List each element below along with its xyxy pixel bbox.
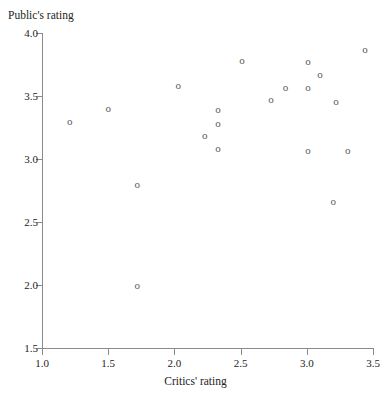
y-tick-label: 2.5 — [0, 217, 38, 228]
data-point: o — [173, 80, 184, 91]
data-point: o — [328, 196, 339, 207]
data-point: o — [132, 179, 143, 190]
y-tick-label: 2.0 — [0, 280, 38, 291]
data-point: o — [342, 145, 353, 156]
data-point: o — [266, 94, 277, 105]
scatter-plot-figure: Public's rating 1.52.02.53.03.54.0 1.01.… — [0, 0, 391, 396]
circle-marker-icon: o — [303, 145, 314, 156]
data-point: o — [360, 44, 371, 55]
circle-marker-icon: o — [303, 56, 314, 67]
y-tick-label: 3.0 — [0, 154, 38, 165]
x-tick-label: 2.5 — [221, 358, 261, 369]
circle-marker-icon: o — [173, 80, 184, 91]
circle-marker-icon: o — [315, 69, 326, 80]
data-point: o — [213, 118, 224, 129]
x-tick-label: 3.0 — [287, 358, 327, 369]
y-axis-line — [42, 33, 43, 349]
data-point: o — [315, 69, 326, 80]
circle-marker-icon: o — [103, 103, 114, 114]
circle-marker-icon: o — [303, 82, 314, 93]
x-axis-line — [42, 348, 374, 349]
x-tick-label: 1.5 — [88, 358, 128, 369]
circle-marker-icon: o — [280, 82, 291, 93]
circle-marker-icon: o — [132, 280, 143, 291]
x-tick-mark — [174, 349, 175, 355]
data-point: o — [213, 104, 224, 115]
circle-marker-icon: o — [199, 130, 210, 141]
circle-marker-icon: o — [360, 44, 371, 55]
data-point: o — [213, 143, 224, 154]
circle-marker-icon: o — [213, 118, 224, 129]
y-tick-label: 4.0 — [0, 28, 38, 39]
data-point: o — [303, 145, 314, 156]
circle-marker-icon: o — [213, 143, 224, 154]
data-point: o — [303, 82, 314, 93]
plot-area: 1.52.02.53.03.54.0 1.01.52.02.53.03.5 oo… — [0, 0, 391, 396]
data-point: o — [132, 280, 143, 291]
circle-marker-icon: o — [328, 196, 339, 207]
data-point: o — [303, 56, 314, 67]
data-point: o — [236, 55, 247, 66]
circle-marker-icon: o — [64, 116, 75, 127]
data-point: o — [64, 116, 75, 127]
x-tick-mark — [42, 349, 43, 355]
y-tick-label: 3.5 — [0, 91, 38, 102]
circle-marker-icon: o — [213, 104, 224, 115]
data-point: o — [103, 103, 114, 114]
circle-marker-icon: o — [330, 96, 341, 107]
circle-marker-icon: o — [342, 145, 353, 156]
x-axis-title: Critics' rating — [0, 375, 391, 388]
x-tick-mark — [373, 349, 374, 355]
x-tick-label: 2.0 — [154, 358, 194, 369]
circle-marker-icon: o — [132, 179, 143, 190]
data-point: o — [280, 82, 291, 93]
circle-marker-icon: o — [266, 94, 277, 105]
x-tick-mark — [108, 349, 109, 355]
x-tick-mark — [307, 349, 308, 355]
x-tick-mark — [241, 349, 242, 355]
x-tick-label: 1.0 — [22, 358, 62, 369]
x-tick-label: 3.5 — [353, 358, 391, 369]
circle-marker-icon: o — [236, 55, 247, 66]
y-tick-label: 1.5 — [0, 343, 38, 354]
data-point: o — [330, 96, 341, 107]
data-point: o — [199, 130, 210, 141]
